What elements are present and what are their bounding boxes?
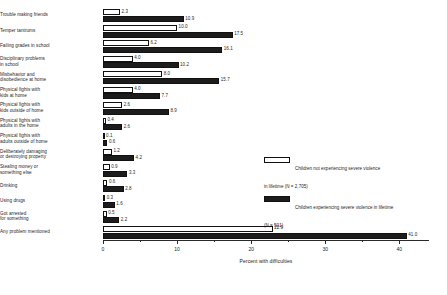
- bar-value-label: 4.0: [134, 55, 140, 61]
- bar-value-label: 0.5: [108, 210, 114, 216]
- bar-value-label: 2.6: [124, 102, 130, 108]
- category-label: Deliberately damaging or destroying prop…: [0, 149, 96, 160]
- bar-no-violence: [103, 40, 149, 46]
- bar-value-label: 1.6: [116, 201, 122, 207]
- bar-no-violence: [103, 133, 105, 139]
- legend-entry-light: Children not experiencing severe violenc…: [264, 156, 439, 192]
- x-axis-title: Percent with difficulties: [240, 258, 293, 264]
- bar-severe-violence: [103, 155, 134, 161]
- axis-tick-label: 20: [248, 246, 254, 252]
- bar-row: 8.9: [103, 109, 429, 115]
- bar-value-label: 2.2: [121, 217, 127, 223]
- legend-swatch-light: [264, 157, 290, 164]
- axis-tick-major: [251, 240, 252, 244]
- bar-value-label: 2.6: [124, 124, 130, 130]
- bar-severe-violence: [103, 62, 179, 68]
- bar-severe-violence: [103, 140, 107, 146]
- bar-severe-violence: [103, 78, 219, 84]
- bar-chart: Trouble making friendsTemper tantrumsFai…: [0, 0, 447, 295]
- bar-no-violence: [103, 164, 110, 170]
- bar-row: 8.0: [103, 71, 429, 77]
- chart-legend: Children not experiencing severe violenc…: [264, 156, 439, 234]
- category-label: Physical fights with adults outside of h…: [0, 133, 96, 144]
- bar-value-label: 10.2: [180, 62, 189, 68]
- bar-value-label: 8.0: [164, 71, 170, 77]
- bar-row: 2.6: [103, 102, 429, 108]
- axis-tick-minor: [288, 240, 289, 242]
- bar-severe-violence: [103, 202, 115, 208]
- category-label: Trouble making friends: [0, 12, 96, 18]
- bar-value-label: 4.0: [134, 86, 140, 92]
- axis-tick-label: 0: [102, 246, 105, 252]
- bar-row: 4.0: [103, 56, 429, 62]
- bar-no-violence: [103, 195, 105, 201]
- bar-row: 17.5: [103, 32, 429, 38]
- bar-no-violence: [103, 149, 112, 155]
- axis-tick-label: 10: [174, 246, 180, 252]
- bar-no-violence: [103, 56, 133, 62]
- category-label: Misbehavior and disobedience at home: [0, 72, 96, 83]
- bar-row: 2.6: [103, 124, 429, 130]
- bar-row: 10.0: [103, 25, 429, 31]
- bar-no-violence: [103, 102, 122, 108]
- bar-value-label: 8.9: [170, 108, 176, 114]
- bar-row: 10.9: [103, 16, 429, 22]
- axis-tick-major: [177, 240, 178, 244]
- bar-value-label: 10.0: [179, 24, 188, 30]
- bar-row: 1.2: [103, 149, 429, 155]
- bar-no-violence: [103, 226, 273, 232]
- bar-no-violence: [103, 25, 177, 31]
- bar-row: 16.1: [103, 47, 429, 53]
- bar-row: 4.0: [103, 87, 429, 93]
- bar-severe-violence: [103, 217, 119, 223]
- bar-row: 0.6: [103, 140, 429, 146]
- bar-value-label: 0.3: [107, 195, 113, 201]
- bar-no-violence: [103, 211, 107, 217]
- bar-severe-violence: [103, 93, 160, 99]
- bar-value-label: 17.5: [234, 31, 243, 37]
- axis-tick-label: 30: [322, 246, 328, 252]
- category-label: Any problem mentioned: [0, 229, 96, 235]
- bar-severe-violence: [103, 186, 124, 192]
- axis-tick-major: [325, 240, 326, 244]
- axis-tick-major: [399, 240, 400, 244]
- bar-no-violence: [103, 71, 162, 77]
- bar-no-violence: [103, 180, 107, 186]
- axis-tick-minor: [214, 240, 215, 242]
- bar-severe-violence: [103, 171, 127, 177]
- category-label: Physical fights with kids at home: [0, 87, 96, 98]
- bar-row: 7.7: [103, 93, 429, 99]
- bar-row: 0.1: [103, 133, 429, 139]
- bar-value-label: 10.9: [185, 16, 194, 22]
- bar-severe-violence: [103, 109, 169, 115]
- bar-value-label: 0.6: [109, 179, 115, 185]
- bar-no-violence: [103, 87, 133, 93]
- bar-value-label: 15.7: [221, 77, 230, 83]
- bar-value-label: 0.6: [109, 139, 115, 145]
- category-label: Drinking: [0, 183, 96, 189]
- bar-value-label: 2.8: [125, 186, 131, 192]
- bar-row: 15.7: [103, 78, 429, 84]
- bar-no-violence: [103, 118, 106, 124]
- bar-value-label: 6.2: [150, 40, 156, 46]
- bar-severe-violence: [103, 32, 233, 38]
- bar-value-label: 1.2: [113, 148, 119, 154]
- axis-tick-label: 40: [397, 246, 403, 252]
- bar-row: 0.4: [103, 118, 429, 124]
- axis-tick-minor: [362, 240, 363, 242]
- category-label: Disciplinary problems in school: [0, 56, 96, 67]
- bar-value-label: 0.9: [111, 164, 117, 170]
- category-label: Temper tantrums: [0, 28, 96, 34]
- axis-tick-minor: [140, 240, 141, 242]
- x-axis: Percent with difficulties 010203040: [103, 240, 429, 280]
- legend-swatch-dark: [264, 196, 290, 203]
- bar-value-label: 7.7: [162, 93, 168, 99]
- bar-no-violence: [103, 9, 120, 15]
- category-label-column: Trouble making friendsTemper tantrumsFai…: [0, 8, 100, 240]
- axis-tick-major: [103, 240, 104, 244]
- x-axis-line: [103, 240, 429, 241]
- bar-row: 6.2: [103, 40, 429, 46]
- legend-label-dark: Children experiencing severe violence in…: [264, 205, 393, 228]
- bar-severe-violence: [103, 124, 122, 130]
- bar-value-label: 0.1: [106, 133, 112, 139]
